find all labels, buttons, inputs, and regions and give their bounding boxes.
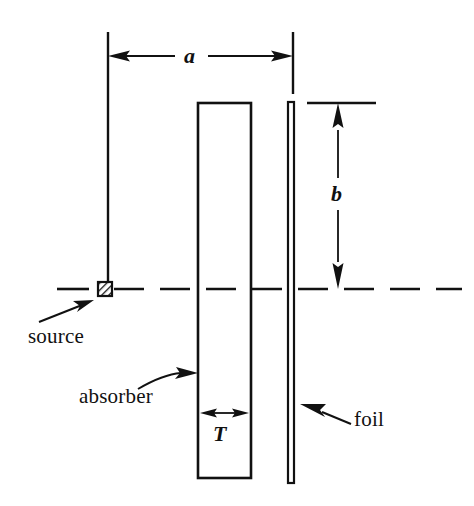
foil-rectangle [288,102,294,483]
dimension-b-lower-arrowhead [333,263,344,289]
figure-canvas: a b T source absorber foil [0,0,474,506]
source-marker-hatched-square [98,282,112,296]
dimension-label-a: a [184,45,195,67]
source-leader-shaft [39,305,82,322]
diagram-svg [0,0,474,506]
foil-leader-shaft [322,412,351,424]
dimension-label-b: b [331,183,342,205]
part-label-absorber: absorber [79,386,153,407]
foil-leader-arrowhead [300,404,326,417]
dimension-label-T: T [213,423,226,445]
part-label-foil: foil [354,409,384,430]
dimension-b-upper-arrowhead [333,103,344,128]
part-label-source: source [28,326,84,347]
source-leader-arrowhead [73,300,94,312]
